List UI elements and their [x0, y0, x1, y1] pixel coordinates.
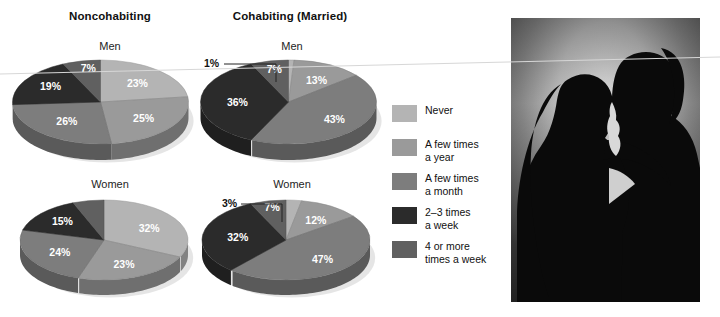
callout-leader-cohabiting-men — [224, 62, 284, 84]
subheader-cohabiting-men: Men — [192, 40, 392, 52]
legend-label: Never — [425, 104, 453, 117]
subheader-noncohabiting-women: Women — [10, 178, 210, 190]
pie-slice-label: 15% — [52, 215, 74, 227]
legend-item: A few times a year — [392, 138, 504, 166]
subheader-cohabiting-women: Women — [192, 178, 392, 190]
legend-swatch — [392, 241, 417, 258]
pie-slice-label: 24% — [49, 246, 71, 258]
legend-item: Never — [392, 104, 504, 132]
callout-label-cohabiting-men: 1% — [204, 57, 219, 69]
pie-chart-noncohabiting-men: 23%25%26%19%7% — [8, 60, 193, 170]
pie-slice-label: 12% — [305, 214, 327, 226]
pie-slice-label: 23% — [114, 258, 136, 270]
legend-label: A few times a month — [425, 172, 479, 197]
legend-swatch — [392, 139, 417, 156]
legend-swatch — [392, 207, 417, 224]
legend-label: 4 or more times a week — [425, 240, 486, 265]
pie-chart-noncohabiting-women: 32%23%24%15% — [14, 200, 194, 305]
figure-root: Noncohabiting Cohabiting (Married) Men M… — [0, 0, 720, 317]
couple-silhouette-kissing-photo — [511, 18, 700, 302]
column-header-cohabiting: Cohabiting (Married) — [190, 10, 390, 22]
legend-swatch — [392, 173, 417, 190]
callout-leader-cohabiting-women — [241, 202, 289, 224]
pie-slice-label: 47% — [312, 253, 334, 265]
pie-slice-label: 19% — [40, 80, 62, 92]
legend-swatch — [392, 105, 417, 122]
legend-label: 2–3 times a week — [425, 206, 471, 231]
pie-slice-label: 25% — [133, 112, 155, 124]
pie-slice-label: 32% — [227, 231, 249, 243]
legend: NeverA few times a yearA few times a mon… — [392, 104, 504, 274]
pie-slice-label: 7% — [81, 62, 97, 74]
pie-top-faces — [20, 200, 188, 280]
legend-item: 4 or more times a week — [392, 240, 504, 268]
column-header-noncohabiting: Noncohabiting — [10, 10, 210, 22]
pie-slice-label: 36% — [227, 96, 249, 108]
legend-label: A few times a year — [425, 138, 479, 163]
callout-label-cohabiting-women: 3% — [222, 197, 237, 209]
pie-slice-label: 43% — [324, 113, 346, 125]
legend-item: A few times a month — [392, 172, 504, 200]
pie-slice-label: 23% — [127, 77, 149, 89]
pie-slice-label: 32% — [139, 222, 161, 234]
pie-slice-label: 26% — [56, 115, 78, 127]
pie-top-faces — [12, 60, 188, 144]
pie-slice-label: 13% — [306, 74, 328, 86]
legend-item: 2–3 times a week — [392, 206, 504, 234]
subheader-noncohabiting-men: Men — [10, 40, 210, 52]
